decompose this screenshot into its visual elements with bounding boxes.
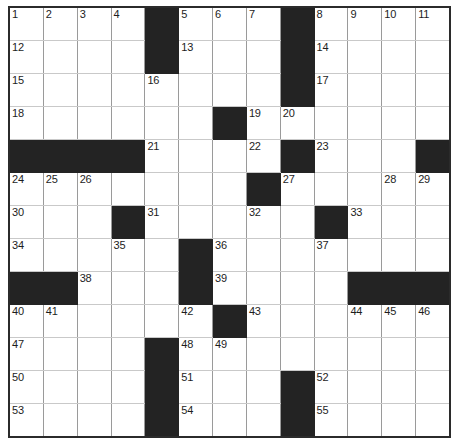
crossword-cell[interactable]: 17 xyxy=(314,74,348,107)
crossword-cell[interactable]: 35 xyxy=(111,239,145,272)
crossword-cell[interactable]: 12 xyxy=(9,41,43,74)
crossword-cell[interactable]: 18 xyxy=(9,107,43,140)
crossword-cell[interactable] xyxy=(382,338,416,371)
crossword-cell[interactable]: 52 xyxy=(314,371,348,404)
crossword-cell[interactable] xyxy=(77,338,111,371)
crossword-cell[interactable] xyxy=(213,206,247,239)
crossword-cell[interactable] xyxy=(382,239,416,272)
crossword-cell[interactable] xyxy=(382,140,416,173)
crossword-cell[interactable] xyxy=(246,338,280,371)
crossword-cell[interactable] xyxy=(280,272,314,305)
crossword-cell[interactable]: 33 xyxy=(348,206,382,239)
crossword-cell[interactable]: 44 xyxy=(348,305,382,338)
crossword-cell[interactable]: 20 xyxy=(280,107,314,140)
crossword-cell[interactable] xyxy=(77,305,111,338)
crossword-cell[interactable] xyxy=(111,338,145,371)
crossword-cell[interactable]: 6 xyxy=(213,7,247,41)
crossword-cell[interactable] xyxy=(314,107,348,140)
crossword-cell[interactable] xyxy=(348,404,382,438)
crossword-cell[interactable] xyxy=(43,338,77,371)
crossword-cell[interactable]: 4 xyxy=(111,7,145,41)
crossword-cell[interactable]: 26 xyxy=(77,173,111,206)
crossword-cell[interactable] xyxy=(43,107,77,140)
crossword-cell[interactable] xyxy=(348,41,382,74)
crossword-cell[interactable] xyxy=(179,74,213,107)
crossword-cell[interactable]: 38 xyxy=(77,272,111,305)
crossword-cell[interactable] xyxy=(416,338,450,371)
crossword-cell[interactable]: 32 xyxy=(246,206,280,239)
crossword-cell[interactable] xyxy=(348,371,382,404)
crossword-cell[interactable]: 55 xyxy=(314,404,348,438)
crossword-cell[interactable]: 9 xyxy=(348,7,382,41)
crossword-cell[interactable] xyxy=(179,206,213,239)
crossword-cell[interactable]: 49 xyxy=(213,338,247,371)
crossword-cell[interactable] xyxy=(280,305,314,338)
crossword-cell[interactable] xyxy=(111,74,145,107)
crossword-cell[interactable]: 40 xyxy=(9,305,43,338)
crossword-grid[interactable]: 1234567891011121314151617181920212223242… xyxy=(8,6,451,438)
crossword-cell[interactable]: 53 xyxy=(9,404,43,438)
crossword-cell[interactable] xyxy=(213,74,247,107)
crossword-cell[interactable] xyxy=(77,239,111,272)
crossword-cell[interactable]: 27 xyxy=(280,173,314,206)
crossword-cell[interactable]: 23 xyxy=(314,140,348,173)
crossword-cell[interactable] xyxy=(348,140,382,173)
crossword-cell[interactable] xyxy=(77,404,111,438)
crossword-cell[interactable] xyxy=(111,371,145,404)
crossword-cell[interactable] xyxy=(416,107,450,140)
crossword-cell[interactable] xyxy=(179,173,213,206)
crossword-cell[interactable]: 41 xyxy=(43,305,77,338)
crossword-cell[interactable] xyxy=(280,239,314,272)
crossword-cell[interactable]: 39 xyxy=(213,272,247,305)
crossword-cell[interactable]: 13 xyxy=(179,41,213,74)
crossword-cell[interactable]: 15 xyxy=(9,74,43,107)
crossword-cell[interactable] xyxy=(382,404,416,438)
crossword-cell[interactable] xyxy=(43,239,77,272)
crossword-cell[interactable] xyxy=(416,371,450,404)
crossword-cell[interactable] xyxy=(348,173,382,206)
crossword-cell[interactable] xyxy=(213,140,247,173)
crossword-cell[interactable]: 28 xyxy=(382,173,416,206)
crossword-cell[interactable] xyxy=(416,74,450,107)
crossword-cell[interactable] xyxy=(314,338,348,371)
crossword-cell[interactable]: 47 xyxy=(9,338,43,371)
crossword-cell[interactable] xyxy=(416,239,450,272)
crossword-cell[interactable] xyxy=(213,404,247,438)
crossword-cell[interactable] xyxy=(145,305,179,338)
crossword-cell[interactable]: 2 xyxy=(43,7,77,41)
crossword-cell[interactable]: 3 xyxy=(77,7,111,41)
crossword-cell[interactable] xyxy=(280,338,314,371)
crossword-cell[interactable] xyxy=(77,206,111,239)
crossword-cell[interactable]: 8 xyxy=(314,7,348,41)
crossword-cell[interactable]: 30 xyxy=(9,206,43,239)
crossword-cell[interactable]: 5 xyxy=(179,7,213,41)
crossword-cell[interactable]: 46 xyxy=(416,305,450,338)
crossword-cell[interactable] xyxy=(111,272,145,305)
crossword-cell[interactable] xyxy=(246,74,280,107)
crossword-cell[interactable] xyxy=(145,272,179,305)
crossword-cell[interactable] xyxy=(382,74,416,107)
crossword-cell[interactable] xyxy=(213,371,247,404)
crossword-cell[interactable] xyxy=(416,41,450,74)
crossword-cell[interactable] xyxy=(246,272,280,305)
crossword-cell[interactable] xyxy=(348,74,382,107)
crossword-cell[interactable] xyxy=(77,107,111,140)
crossword-cell[interactable] xyxy=(213,41,247,74)
crossword-cell[interactable]: 42 xyxy=(179,305,213,338)
crossword-cell[interactable]: 7 xyxy=(246,7,280,41)
crossword-cell[interactable] xyxy=(416,206,450,239)
crossword-cell[interactable]: 10 xyxy=(382,7,416,41)
crossword-cell[interactable]: 37 xyxy=(314,239,348,272)
crossword-cell[interactable] xyxy=(111,107,145,140)
crossword-cell[interactable] xyxy=(246,404,280,438)
crossword-cell[interactable] xyxy=(416,404,450,438)
crossword-cell[interactable] xyxy=(382,371,416,404)
crossword-cell[interactable] xyxy=(77,371,111,404)
crossword-cell[interactable] xyxy=(111,173,145,206)
crossword-cell[interactable] xyxy=(382,41,416,74)
crossword-cell[interactable] xyxy=(43,206,77,239)
crossword-cell[interactable]: 29 xyxy=(416,173,450,206)
crossword-cell[interactable] xyxy=(43,371,77,404)
crossword-cell[interactable]: 50 xyxy=(9,371,43,404)
crossword-cell[interactable]: 54 xyxy=(179,404,213,438)
